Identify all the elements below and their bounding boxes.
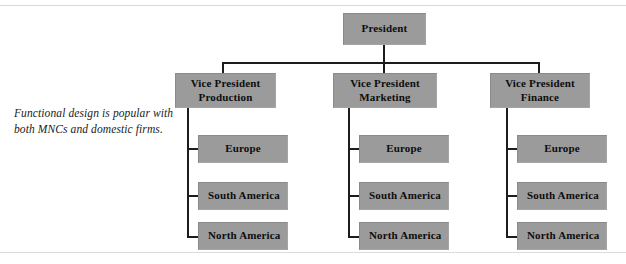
node-vp-finance-line1: Vice President <box>491 77 589 91</box>
node-branch-1-south-america-label: South America <box>208 189 287 203</box>
connector-spine-branch-2 <box>348 108 350 237</box>
node-branch-3-europe: Europe <box>517 135 607 163</box>
node-vice-president-production: Vice President Production <box>175 73 276 108</box>
node-branch-2-europe-label: Europe <box>360 142 448 156</box>
node-branch-1-south-america: South America <box>198 182 288 210</box>
node-branch-1-north-america-label: North America <box>208 229 287 243</box>
connector-spine-branch-3 <box>506 108 508 237</box>
node-vp-production-line2: Production <box>176 91 275 105</box>
node-branch-2-europe: Europe <box>359 135 449 163</box>
node-branch-2-south-america-label: South America <box>369 189 448 203</box>
node-vp-marketing-line2: Marketing <box>334 91 436 105</box>
node-branch-2-south-america: South America <box>359 182 449 210</box>
node-branch-3-south-america-label: South America <box>527 189 606 203</box>
node-branch-1-europe: Europe <box>198 135 288 163</box>
node-vp-production-line1: Vice President <box>176 77 275 91</box>
connector-spine-branch-1 <box>187 108 189 237</box>
node-branch-2-north-america: North America <box>359 222 449 250</box>
node-vp-finance-line2: Finance <box>491 91 589 105</box>
node-branch-3-north-america-label: North America <box>527 229 606 243</box>
node-branch-3-europe-label: Europe <box>518 142 606 156</box>
figure-caption: Functional design is popular with both M… <box>14 106 186 137</box>
node-vice-president-finance: Vice President Finance <box>490 73 590 108</box>
node-branch-3-north-america: North America <box>517 222 607 250</box>
organization-chart-figure: Functional design is popular with both M… <box>0 0 626 264</box>
bottom-divider <box>0 252 626 253</box>
top-divider <box>0 5 626 6</box>
node-branch-1-europe-label: Europe <box>199 142 287 156</box>
node-branch-3-south-america: South America <box>517 182 607 210</box>
connector-root-stem <box>383 45 385 73</box>
node-vice-president-marketing: Vice President Marketing <box>333 73 437 108</box>
connector-distribution-bar <box>222 62 540 64</box>
node-branch-2-north-america-label: North America <box>369 229 448 243</box>
node-president-label: President <box>344 22 425 36</box>
node-branch-1-north-america: North America <box>198 222 288 250</box>
node-president: President <box>343 13 426 45</box>
node-vp-marketing-line1: Vice President <box>334 77 436 91</box>
